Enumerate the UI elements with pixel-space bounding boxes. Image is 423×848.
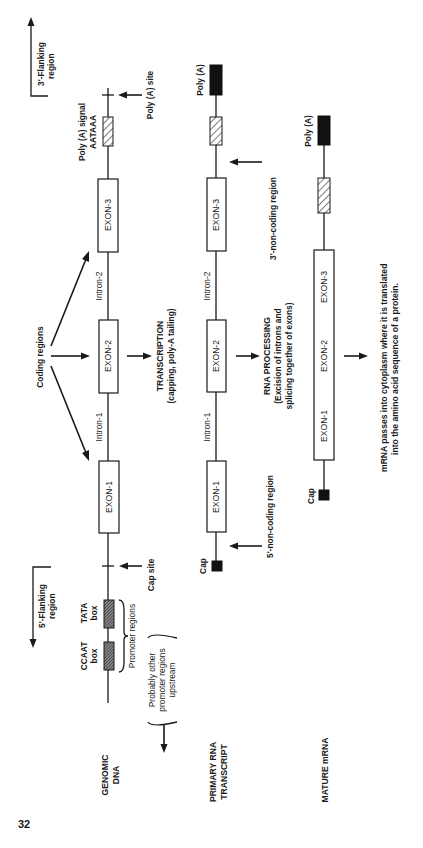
promoter-regions-label: Promoter regions [127,604,137,668]
mature-three-utr-box [318,178,330,213]
primary-polya-tail [210,65,222,95]
arrow-left-icon [229,543,238,550]
arrow-left-icon [229,159,238,166]
primary-stage-label-2: TRANSCRIPT [219,744,229,800]
three-prime-flanking-indicator: 3'-Flanking region [28,17,57,96]
tata-box [104,600,114,628]
arrow-left-icon [118,92,127,99]
three-prime-flanking-label-2: region [46,53,56,79]
polya-site-label: Poly (A) site [145,70,155,119]
gene-expression-diagram: 3'-Flanking region 5'-Flanking region EX… [0,0,423,848]
coding-arrow-exon-1 [51,366,86,453]
coding-regions-label: Coding regions [35,326,45,388]
transcription-step: TRANSCRIPTION (capping, poly-A tailing) [127,308,176,403]
page-number: 32 [18,818,30,830]
genomic-dna-track: EXON-3 EXON-2 EXON-1 Intron-2 Intron-1 P… [77,70,177,795]
transcription-label: TRANSCRIPTION [155,321,165,392]
rna-processing-step: RNA PROCESSING (Excision of introns and … [236,302,294,409]
arrow-right-icon [143,353,152,360]
arrow-icon [82,450,89,461]
other-promoters-label-1: Probably other [147,653,157,708]
genomic-exon-3-label: EXON-3 [103,199,113,231]
other-promoters-label-3: upstream [167,663,177,698]
tata-box-label-1: TATA [79,603,89,623]
mature-mrna-track: EXON-3 EXON-2 EXON-1 Poly (A) Cap MATURE… [303,115,334,802]
five-noncoding-label: 5'-non-coding region [265,475,275,558]
polya-signal-box [103,117,113,146]
ccaat-box-label-2: box [89,648,99,663]
processing-sublabel-2: splicing together of exons) [284,302,294,409]
processing-sublabel-1: (Excision of introns and [273,308,283,403]
other-promoters-label-2: promoter regions [157,648,167,711]
arrow-right-icon [359,353,368,360]
processing-label: RNA PROCESSING [262,317,272,395]
tata-box-label-2: box [89,605,99,620]
five-prime-flanking-indicator: 5'-Flanking region [30,567,58,648]
primary-three-utr-box [210,117,222,145]
three-prime-flanking-label-1: 3'-Flanking [36,42,46,86]
paren-top [148,635,177,638]
polya-signal-sequence: AATAAA [88,115,98,149]
primary-exon-2-label: EXON-2 [211,340,221,372]
arrow-right-icon [251,353,260,360]
mature-cap-label: Cap [306,488,316,504]
translation-label-1: mRNA passes into cytoplasm where it is t… [379,264,389,472]
genomic-exon-2-label: EXON-2 [103,340,113,372]
translation-label-2: into the amino acid sequence of a protei… [390,283,400,455]
coding-regions-callout: Coding regions [35,251,90,461]
arrow-left-icon [119,563,128,570]
cap-site-label: Cap site [146,558,156,591]
transcription-sublabel: (capping, poly-A tailing) [166,308,176,403]
genomic-exon-1-label: EXON-1 [104,481,114,513]
primary-intron-1-label: Intron-1 [202,412,212,441]
mature-exon-2-label: EXON-2 [319,340,329,372]
primary-cap [212,561,222,571]
arrow-down-icon [161,744,168,753]
ccaat-box [104,642,114,670]
mature-cap [319,490,329,500]
primary-cap-label: Cap [198,558,208,574]
genomic-intron-1-label: Intron-1 [94,412,104,441]
arrow-right-icon [81,353,90,360]
mature-exon-3-label: EXON-3 [319,271,329,303]
genomic-dna-stage-label-2: DNA [111,766,121,785]
genomic-intron-2-label: Intron-2 [94,271,104,300]
coding-arrow-exon-3 [51,259,86,346]
ccaat-box-label-1: CCAAT [79,641,89,671]
arrow-icon [82,251,89,262]
primary-stage-label-1: PRIMARY RNA [208,742,218,802]
primary-polya-label: Poly (A) [195,64,205,96]
primary-exon-3-label: EXON-3 [211,199,221,231]
five-prime-flanking-label-1: 5'-Flanking [37,584,47,628]
primary-rna-track: EXON-3 EXON-2 EXON-1 Intron-2 Intron-1 P… [195,64,278,802]
arrow-up-icon [28,17,35,26]
mature-polya-tail [318,116,330,145]
mature-exon-1-label: EXON-1 [319,410,329,442]
five-prime-flanking-label-2: region [47,593,57,619]
mature-polya-label: Poly (A) [303,115,313,147]
primary-exon-1-label: EXON-1 [211,481,221,513]
genomic-dna-stage-label-1: GENOMIC [100,754,110,795]
mature-stage-label: MATURE mRNA [320,738,330,803]
polya-signal-label: Poly (A) signal [77,103,87,161]
primary-intron-2-label: Intron-2 [202,271,212,300]
arrow-down-icon [30,639,37,648]
paren-bottom [148,722,177,725]
three-noncoding-label: 3'-non-coding region [268,177,278,260]
translation-step: mRNA passes into cytoplasm where it is t… [344,264,400,472]
